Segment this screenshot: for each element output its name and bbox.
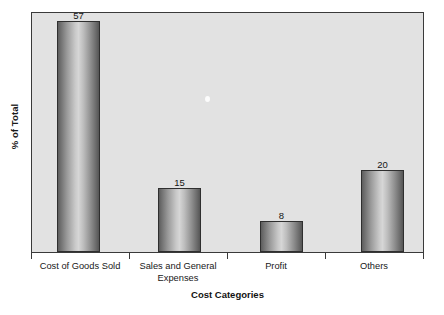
bar-value-label: 20 xyxy=(377,159,388,170)
bar-value-label: 8 xyxy=(279,210,284,221)
x-tick-label-line: Sales and General xyxy=(129,260,227,272)
bar-value-label: 57 xyxy=(73,10,84,21)
x-tick-label-cost-of-goods-sold: Cost of Goods Sold xyxy=(31,260,129,272)
y-axis-title-label: % of Total xyxy=(10,104,21,150)
x-axis-tick xyxy=(423,253,424,259)
x-tick-label-line: Expenses xyxy=(129,272,227,284)
bar-cost-of-goods-sold[interactable]: 57 xyxy=(57,21,100,252)
scan-speck-artifact xyxy=(205,96,210,102)
x-tick-label-profit: Profit xyxy=(227,260,325,272)
x-tick-label-sales-and-general-expenses: Sales and General Expenses xyxy=(129,260,227,284)
x-tick-label-line: Profit xyxy=(227,260,325,272)
bar-others[interactable]: 20 xyxy=(361,170,404,252)
x-tick-label-others: Others xyxy=(325,260,423,272)
bar-sales-and-general-expenses[interactable]: 15 xyxy=(158,188,201,252)
plot-area: 57 15 8 20 xyxy=(31,12,424,253)
x-axis-title: Cost Categories xyxy=(31,289,424,300)
y-axis-title: % of Total xyxy=(0,0,30,253)
x-axis-tick xyxy=(129,253,130,259)
plot-inner: 57 15 8 20 xyxy=(32,13,423,252)
x-axis-tick-labels: Cost of Goods Sold Sales and General Exp… xyxy=(31,260,424,290)
bar-value-label: 15 xyxy=(174,177,185,188)
x-axis-tick xyxy=(325,253,326,259)
bar-chart-figure: % of Total 57 15 8 20 xyxy=(0,0,444,315)
x-axis-tick xyxy=(31,253,32,259)
x-tick-label-line: Others xyxy=(325,260,423,272)
bar-profit[interactable]: 8 xyxy=(260,221,303,252)
x-tick-label-line: Cost of Goods Sold xyxy=(31,260,129,272)
x-axis-tick xyxy=(227,253,228,259)
